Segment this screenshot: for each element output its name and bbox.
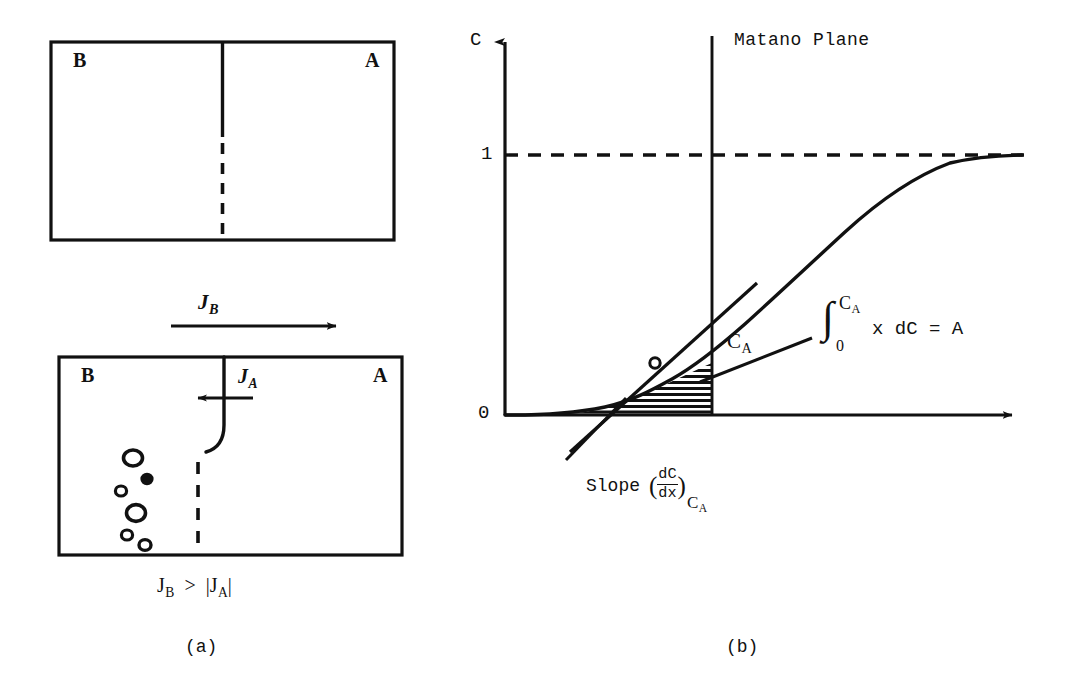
slope-sub-sub: A [698,502,707,515]
bottom-box-divider-hook [206,357,224,452]
bottom-box-label-a: A [373,365,387,385]
ca-level-label: CA [727,331,752,355]
integral-body: x dC = A [848,318,963,340]
void-1 [124,450,143,466]
slope-subscript: CA [686,493,707,512]
panel-a-top-box [51,42,394,240]
inequality-right-sub: A [217,585,227,600]
integral-lower-limit: 0 [836,338,844,354]
y-tick-label-one: 1 [481,145,492,164]
ca-leader-line [700,338,812,382]
void-5 [121,530,132,540]
inequality-operator: > [174,574,205,596]
slope-numerator: dC [657,467,677,485]
ja-flux-main: J [238,365,248,387]
ca-level-main: C [727,329,741,353]
void-cluster [115,450,152,550]
ja-flux-sub: A [248,376,258,391]
inequality-left-main: J [157,574,165,596]
caption-b: (b) [726,638,758,656]
slope-open-paren: ( [640,472,657,499]
void-3 [115,486,126,496]
integral-upper-sub: A [851,302,860,316]
marker-point-ca [650,358,660,368]
integral-symbol-group: ∫ CA 0 [822,300,848,358]
integral-upper-main: C [839,293,851,313]
inequality-bar-close: | [228,574,232,596]
flux-inequality: JB>|JA| [157,575,232,599]
jb-flux-main: J [198,290,209,314]
y-tick-label-zero: 0 [478,404,489,423]
integral-expression: ∫ CA 0 x dC = A [822,300,963,358]
bottom-box-label-b: B [81,365,94,385]
ja-flux-label: JA [238,366,258,390]
slope-sub-main: C [687,493,698,512]
inequality-left-sub: B [165,585,175,600]
void-4 [127,505,146,522]
void-2 [142,474,152,483]
slope-fraction: dCdx [657,467,677,502]
caption-a: (a) [185,638,217,656]
jb-flux-label: JB [198,292,219,316]
bottom-box-outline [59,357,402,555]
top-box-label-b: B [73,50,86,70]
top-box-label-a: A [365,50,379,70]
ca-level-sub: A [741,340,752,356]
panel-a-bottom-box [59,357,402,555]
slope-close-paren: ) [678,472,686,499]
y-axis-label: C [470,31,481,50]
integral-upper-limit: CA [839,294,860,316]
slope-expression: Slope(dCdx)CA [586,467,707,515]
void-6 [139,540,151,551]
integral-symbol: ∫ [822,296,834,340]
slope-word: Slope [586,476,640,496]
slope-denominator: dx [657,485,677,502]
matano-plane-label: Matano Plane [734,31,870,49]
concentration-curve [505,155,1022,415]
jb-flux-sub: B [209,301,219,317]
